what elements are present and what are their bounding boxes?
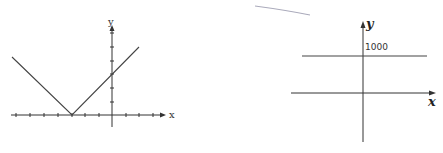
y-axis-label: y — [107, 16, 114, 27]
x-axis-label: x — [169, 109, 175, 120]
stray-mark — [255, 6, 310, 15]
x-axis-label: x — [427, 94, 436, 109]
value-label-1000: 1000 — [365, 42, 388, 52]
diagram-canvas: y x 1000 y x — [0, 0, 443, 153]
absolute-value-curve — [12, 47, 139, 115]
y-axis-arrow-icon — [361, 21, 366, 28]
graph-absolute-value: y x — [11, 16, 175, 127]
y-axis-label: y — [365, 16, 375, 31]
x-axis-arrow-icon — [160, 113, 166, 118]
graph-horizontal-line: 1000 y x — [291, 16, 436, 142]
